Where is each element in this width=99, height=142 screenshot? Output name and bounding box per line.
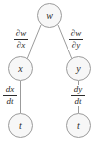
node-w: w <box>37 3 62 28</box>
edge-label-denominator: dt <box>73 97 82 106</box>
edge-w-to-x <box>27 25 41 59</box>
node-y-label: y <box>76 64 80 74</box>
node-x-label: x <box>18 64 22 74</box>
node-w-label: w <box>46 11 53 21</box>
edge-label-partial-w-partial-y: ∂w ∂y <box>68 29 84 50</box>
edge-label-numerator: dx <box>5 85 16 94</box>
edge-label-numerator: ∂w <box>70 29 82 38</box>
edge-label-denominator: ∂y <box>71 41 81 50</box>
node-t-left: t <box>8 113 33 138</box>
node-t-left-label: t <box>19 121 22 131</box>
node-t-right: t <box>66 113 91 138</box>
node-y: y <box>66 56 91 81</box>
edge-label-numerator: ∂w <box>15 29 27 38</box>
chain-rule-tree-diagram: w x y t t ∂w ∂x ∂w ∂y dx dt dy dt <box>0 0 99 142</box>
edge-label-dy-dt: dy dt <box>70 85 86 106</box>
edge-label-denominator: ∂x <box>16 41 26 50</box>
edge-label-denominator: dt <box>5 97 14 106</box>
edge-label-partial-w-partial-x: ∂w ∂x <box>13 29 29 50</box>
edge-label-dx-dt: dx dt <box>2 85 18 106</box>
edge-label-numerator: dy <box>73 85 84 94</box>
node-t-right-label: t <box>77 121 80 131</box>
node-x: x <box>8 56 33 81</box>
